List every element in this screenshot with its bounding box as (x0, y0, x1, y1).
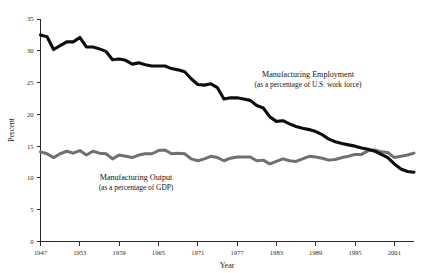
x-tick-label: 1947 (34, 249, 48, 256)
annotation-employment-line1: Manufacturing Employment (262, 70, 355, 79)
chart-page: 05101520253035 1947195319591965197119771… (0, 0, 424, 273)
x-axis-title: Year (220, 261, 235, 270)
x-tick-label: 1965 (152, 249, 166, 256)
x-tick-label: 1989 (309, 249, 323, 256)
x-tick-label: 1995 (348, 249, 362, 256)
y-axis-title: Percent (7, 117, 16, 142)
annotation-employment: Manufacturing Employment (as a percentag… (254, 70, 362, 89)
y-tick-label: 35 (27, 15, 34, 22)
y-tick-label: 15 (27, 143, 34, 150)
x-tick-label: 2001 (388, 249, 401, 256)
annotation-output-line2: (as a percentage of GDP) (99, 183, 174, 192)
x-tick-label: 1983 (270, 249, 284, 256)
x-tick-label: 1959 (113, 249, 127, 256)
y-tick-label: 30 (27, 47, 34, 54)
annotation-employment-line2: (as a percentage of U.S. work force) (254, 80, 362, 89)
y-tick-label: 20 (27, 111, 34, 118)
annotation-output-line1: Manufacturing Output (100, 173, 173, 182)
chart-background (0, 0, 424, 273)
y-tick-label: 25 (27, 79, 34, 86)
x-tick-label: 1971 (191, 249, 204, 256)
annotation-output: Manufacturing Output (as a percentage of… (99, 173, 174, 192)
x-tick-label: 1953 (73, 249, 87, 256)
x-tick-label: 1977 (230, 249, 244, 256)
y-tick-label: 10 (27, 174, 34, 181)
line-chart: 05101520253035 1947195319591965197119771… (0, 0, 424, 273)
